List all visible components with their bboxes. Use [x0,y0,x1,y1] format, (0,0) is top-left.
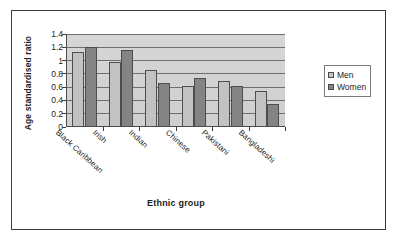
x-axis-category-label: Indian [127,128,150,150]
legend-item-label: Men [337,70,354,80]
bar-group [212,34,249,127]
y-axis-title: Age standardised ratio [21,28,35,138]
bar-women-bangladeshi [267,104,279,127]
legend-item-label: Women [337,82,366,92]
plot-area [66,34,285,127]
bar-men-irish [109,62,121,127]
y-axis-tick-mark [62,100,66,101]
bar-group [176,34,213,127]
chart-legend: MenWomen [324,65,371,97]
x-axis-category-label: Irish [91,128,109,145]
chart-screenshot: Age standardised ratio 1.41.210.80.60.40… [0,0,399,242]
bar-men-bangladeshi [255,91,267,127]
bar-women-chinese [194,78,206,127]
x-axis-category-label: Chinese [164,128,192,155]
legend-item[interactable]: Women [328,81,366,93]
x-axis-title: Ethnic group [66,198,286,208]
y-axis-tick-mark [62,113,66,114]
x-axis-category-label: Pakistani [200,128,231,157]
bar-women-pakistani [231,86,243,127]
y-axis-tick-mark [62,34,66,35]
y-axis-tick-mark [62,60,66,61]
bar-group [103,34,140,127]
x-axis-category-label: Bangladeshi [237,128,277,165]
bar-men-pakistani [218,81,230,127]
y-axis-tick-mark [62,73,66,74]
legend-swatch-icon [328,84,334,90]
bar-women-indian [158,83,170,127]
y-axis-title-text: Age standardised ratio [23,36,33,130]
bar-men-indian [145,70,157,127]
bar-group [66,34,103,127]
bars-layer [66,34,285,127]
bar-women-black-caribbean [85,47,97,127]
y-axis-tick-mark [62,87,66,88]
x-axis-category-labels: Black CaribbeanIrishIndianChinesePakista… [66,128,296,190]
y-axis-line [66,34,67,127]
bar-group [249,34,286,127]
y-axis-tick-mark [62,47,66,48]
legend-swatch-icon [328,72,334,78]
bar-men-chinese [182,86,194,127]
y-axis-tick-labels: 1.41.210.80.60.40.20 [39,29,63,127]
bar-women-irish [121,50,133,127]
bar-group [139,34,176,127]
legend-item[interactable]: Men [328,69,366,81]
bar-men-black-caribbean [72,52,84,127]
